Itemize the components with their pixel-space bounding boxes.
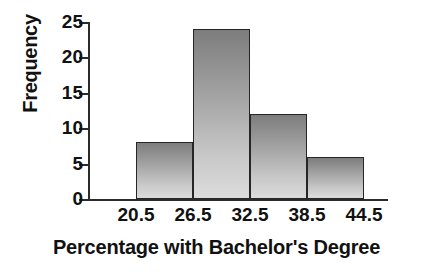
histogram-bar (136, 142, 193, 199)
histogram-bar (250, 114, 307, 199)
y-tick-label: 5 (72, 154, 83, 173)
x-tick-label: 32.5 (232, 205, 269, 224)
y-tick-label: 0 (72, 189, 83, 208)
x-tick-label: 20.5 (118, 205, 155, 224)
x-axis-title: Percentage with Bachelor's Degree (0, 236, 433, 259)
x-tick-label: 26.5 (175, 205, 212, 224)
x-tick-label: 38.5 (289, 205, 326, 224)
y-tick-label: 20 (62, 48, 83, 67)
histogram-figure: Frequency 0 5 10 15 20 25 (0, 0, 433, 272)
y-tick-label: 25 (62, 12, 83, 31)
histogram-bar (307, 157, 364, 199)
x-axis-line (88, 199, 388, 201)
y-axis-title: Frequency (19, 0, 42, 139)
plot-area: 0 5 10 15 20 25 20.5 2 (88, 22, 388, 200)
histogram-bar (193, 29, 250, 199)
y-tick-label: 15 (62, 83, 83, 102)
x-tick-label: 44.5 (346, 205, 383, 224)
bars-group (88, 22, 388, 199)
y-tick-label: 10 (62, 118, 83, 137)
